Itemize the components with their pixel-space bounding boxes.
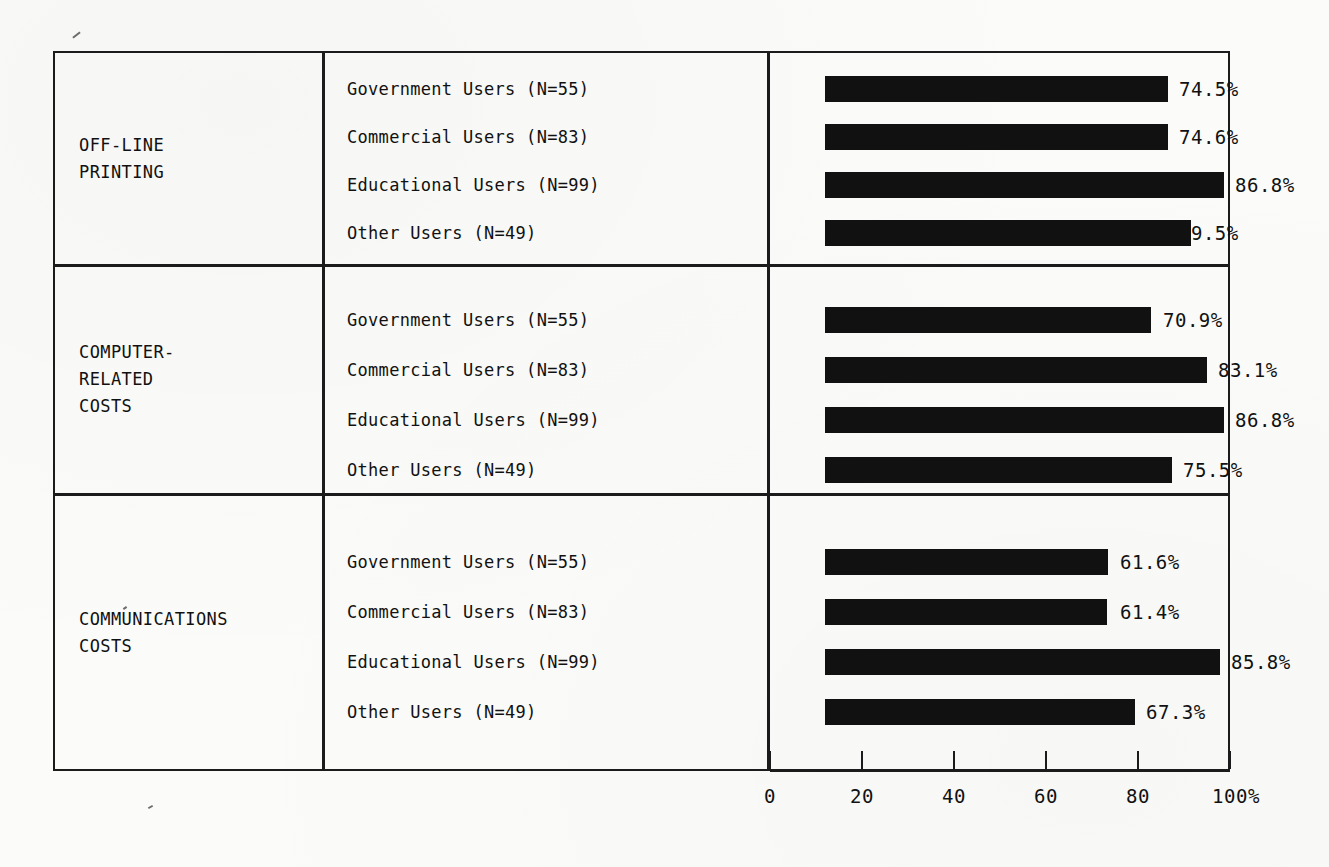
bar-value-label: 61.4% <box>1120 602 1180 622</box>
group-label: Commercial Users (N=83) <box>347 127 589 147</box>
axis-tick <box>1137 751 1139 769</box>
bar-value-label: 86.8% <box>1235 175 1295 195</box>
section-category-label: COMMUNICATIONS COSTS <box>79 606 228 660</box>
bar <box>825 307 1151 333</box>
axis-tick-label: 0 <box>764 785 776 807</box>
group-label: Educational Users (N=99) <box>347 175 600 195</box>
group-label: Government Users (N=55) <box>347 552 589 572</box>
section-category-cell: COMMUNICATIONS COSTS <box>55 495 322 771</box>
axis-tick-label: 100% <box>1212 785 1260 807</box>
bar-value-label: 74.5% <box>1179 79 1239 99</box>
bar <box>825 357 1207 383</box>
group-label: Commercial Users (N=83) <box>347 360 589 380</box>
group-label: Government Users (N=55) <box>347 79 589 99</box>
axis-tick <box>953 751 955 769</box>
bar <box>825 599 1107 625</box>
section-category-label: COMPUTER- RELATED COSTS <box>79 339 175 420</box>
bar-value-label: 75.5% <box>1183 460 1243 480</box>
section-bars: 61.6% 61.4% 85.8% 67.3% <box>769 495 1228 771</box>
scan-speck <box>148 805 153 809</box>
bar <box>825 649 1220 675</box>
bar-value-label: 74.6% <box>1179 127 1239 147</box>
section-category-label: OFF-LINE PRINTING <box>79 132 164 186</box>
section-bars: 74.5% 74.6% 86.8% 79.5% <box>769 53 1228 264</box>
axis-tick <box>861 751 863 769</box>
group-label: Other Users (N=49) <box>347 223 537 243</box>
bar-value-label: 79.5% <box>1179 223 1239 243</box>
bar <box>825 124 1168 150</box>
section-category-cell: COMPUTER- RELATED COSTS <box>55 266 322 493</box>
chart-table-frame: OFF-LINE PRINTING Government Users (N=55… <box>53 51 1230 771</box>
bar-value-label: 83.1% <box>1218 360 1278 380</box>
bar <box>825 172 1224 198</box>
bar-value-label: 86.8% <box>1235 410 1295 430</box>
bar-value-label: 67.3% <box>1146 702 1206 722</box>
axis-line <box>770 769 1230 772</box>
section-category-cell: OFF-LINE PRINTING <box>55 53 322 264</box>
group-label: Educational Users (N=99) <box>347 410 600 430</box>
axis-tick <box>1229 751 1231 769</box>
bar <box>825 457 1172 483</box>
axis-tick <box>1045 751 1047 769</box>
axis-tick <box>769 751 771 769</box>
section-group-labels: Government Users (N=55) Commercial Users… <box>324 495 767 771</box>
group-label: Government Users (N=55) <box>347 310 589 330</box>
bar <box>825 407 1224 433</box>
bar-value-label: 70.9% <box>1163 310 1223 330</box>
axis-tick-label: 60 <box>1034 785 1058 807</box>
axis-tick-label: 20 <box>850 785 874 807</box>
group-label: Other Users (N=49) <box>347 702 537 722</box>
axis-tick-label: 80 <box>1126 785 1150 807</box>
bar-value-label: 85.8% <box>1231 652 1291 672</box>
section-group-labels: Government Users (N=55) Commercial Users… <box>324 266 767 493</box>
bar <box>825 699 1135 725</box>
group-label: Commercial Users (N=83) <box>347 602 589 622</box>
group-label: Other Users (N=49) <box>347 460 537 480</box>
scan-speck <box>72 31 80 38</box>
bar <box>825 76 1168 102</box>
group-label: Educational Users (N=99) <box>347 652 600 672</box>
bar <box>825 549 1108 575</box>
bar <box>825 220 1191 246</box>
chart-section-computer-related-costs: COMPUTER- RELATED COSTS Government Users… <box>55 266 1228 493</box>
axis-tick-label: 40 <box>942 785 966 807</box>
bar-value-label: 61.6% <box>1120 552 1180 572</box>
chart-section-communications-costs: COMMUNICATIONS COSTS Government Users (N… <box>55 495 1228 771</box>
scanned-page: OFF-LINE PRINTING Government Users (N=55… <box>0 0 1329 867</box>
chart-section-off-line-printing: OFF-LINE PRINTING Government Users (N=55… <box>55 53 1228 264</box>
section-bars: 70.9% 83.1% 86.8% 75.5% <box>769 266 1228 493</box>
section-group-labels: Government Users (N=55) Commercial Users… <box>324 53 767 264</box>
